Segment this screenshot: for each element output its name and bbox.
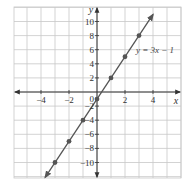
origin-label: 0: [90, 94, 95, 104]
axes: [15, 8, 180, 177]
y-tick-label: 8: [90, 31, 95, 41]
data-point: [137, 33, 142, 38]
y-tick-label: −4: [84, 115, 94, 125]
y-axis-label: y: [88, 4, 94, 15]
labels: −4−224−10−8−6−4−22468100xyy = 3x − 1: [36, 4, 179, 168]
x-tick-label: −4: [36, 95, 46, 105]
y-tick-label: 6: [90, 45, 95, 55]
chart: −4−224−10−8−6−4−22468100xyy = 3x − 1: [0, 0, 182, 180]
y-tick-label: −10: [80, 158, 95, 168]
x-tick-label: 2: [123, 95, 128, 105]
x-tick-label: 4: [151, 95, 156, 105]
x-tick-label: −2: [64, 95, 74, 105]
data-point: [123, 54, 128, 59]
series: [45, 14, 153, 177]
data-point: [109, 76, 114, 81]
y-tick-label: −6: [84, 129, 94, 139]
data-point: [67, 139, 72, 144]
data-point: [95, 97, 100, 102]
data-point: [53, 160, 58, 165]
y-tick-label: 2: [90, 73, 95, 83]
series-line: [45, 14, 153, 177]
equation-label: y = 3x − 1: [135, 45, 174, 55]
y-tick-label: −8: [84, 143, 94, 153]
x-axis-label: x: [173, 95, 179, 106]
y-tick-label: 10: [85, 17, 95, 27]
y-tick-label: 4: [90, 59, 95, 69]
